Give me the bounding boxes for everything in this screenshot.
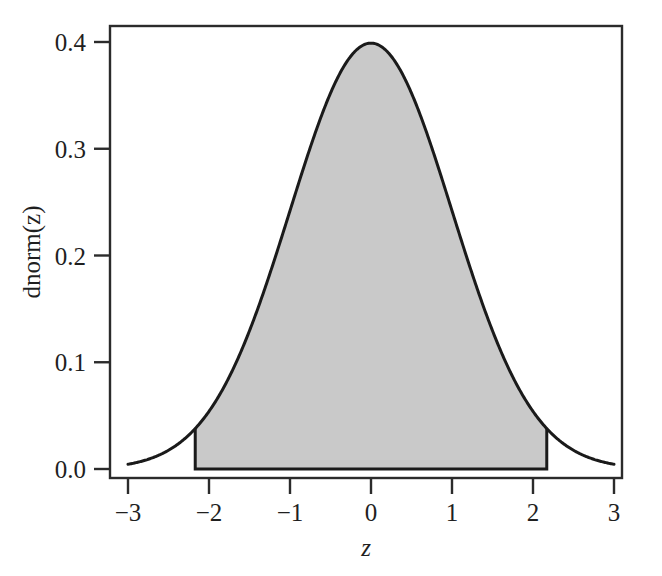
x-axis-title: z [360,534,371,561]
x-tick-label: 1 [446,499,459,526]
x-axis-tick-labels: −3−2−10123 [115,499,621,526]
y-tick-label: 0.3 [55,136,86,163]
x-tick-label: 0 [365,499,378,526]
y-tick-label: 0.1 [55,349,86,376]
x-tick-label: −3 [115,499,142,526]
y-axis-title: dnorm(z) [18,205,46,298]
chart-canvas: −3−2−10123 0.00.10.20.30.4 z dnorm(z) [0,0,662,576]
y-tick-label: 0.0 [55,456,86,483]
x-tick-label: 2 [527,499,540,526]
x-axis-ticks [128,478,614,494]
x-tick-label: 3 [608,499,621,526]
x-tick-label: −2 [196,499,223,526]
x-tick-label: −1 [277,499,304,526]
y-axis-tick-labels: 0.00.10.20.30.4 [55,29,87,483]
y-axis-ticks [94,42,110,469]
normal-density-chart: −3−2−10123 0.00.10.20.30.4 z dnorm(z) [0,0,662,576]
y-tick-label: 0.4 [55,29,87,56]
y-tick-label: 0.2 [55,243,86,270]
